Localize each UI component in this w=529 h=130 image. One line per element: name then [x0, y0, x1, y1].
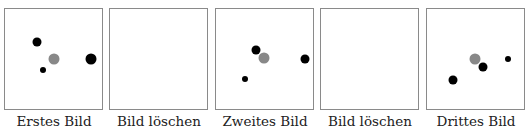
center-point [48, 54, 59, 65]
frame-panel [215, 8, 314, 110]
frame-caption: Drittes Bild [423, 113, 529, 129]
particle-dot [449, 76, 458, 85]
frame-caption: Bild löschen [317, 113, 423, 129]
particle-dot [242, 76, 248, 82]
frame-caption: Erstes Bild [1, 113, 107, 129]
particle-dot [505, 56, 511, 62]
frame-panel [426, 8, 525, 110]
particle-dot [479, 63, 488, 72]
particle-dot [33, 38, 42, 47]
frame-caption: Zweites Bild [212, 113, 318, 129]
frame-panel [320, 8, 419, 110]
center-point [469, 54, 480, 65]
center-point [258, 53, 269, 64]
particle-dot [86, 54, 97, 65]
particle-dot [301, 55, 310, 64]
frame-panel [4, 8, 103, 110]
particle-dot [40, 67, 46, 73]
frame-caption: Bild löschen [106, 113, 212, 129]
frame-panel [109, 8, 208, 110]
